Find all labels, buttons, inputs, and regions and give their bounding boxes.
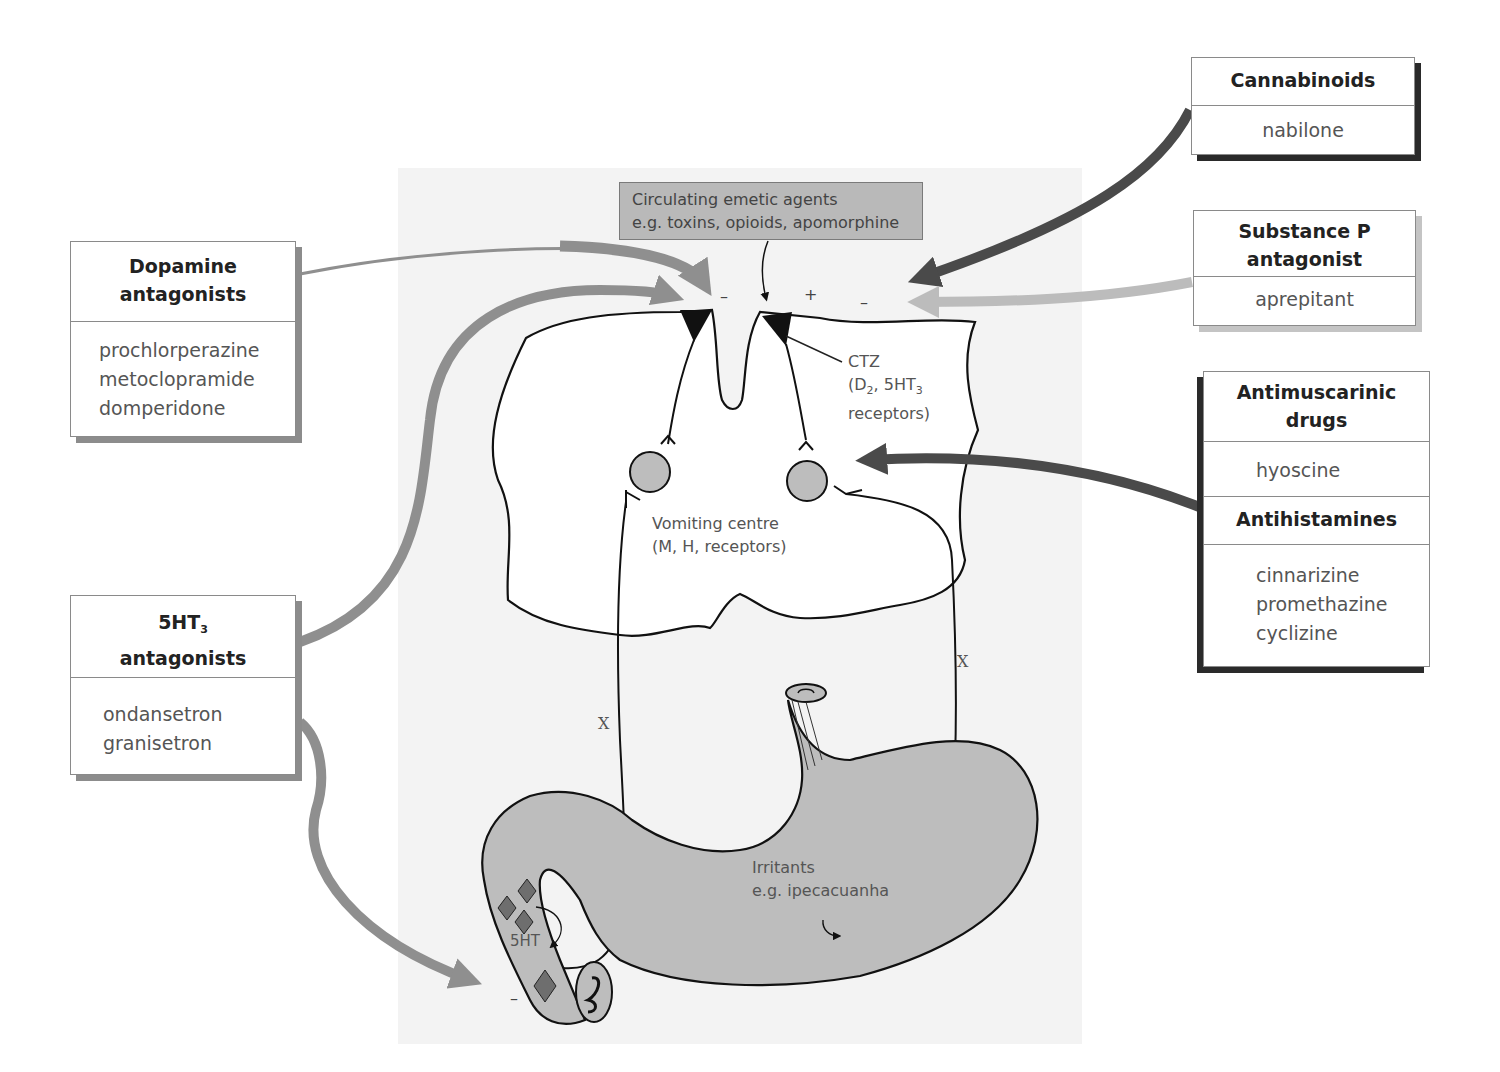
- ht3-antagonists-header: 5HT3 antagonists: [71, 596, 295, 678]
- sign-minus-ctz-right: –: [860, 293, 868, 312]
- cannabinoid-arrow: [920, 110, 1190, 278]
- antimuscarinic-header: Antimuscarinic drugs: [1204, 372, 1429, 442]
- cannabinoids-header: Cannabinoids: [1192, 58, 1414, 106]
- ht3-arrow-to-gut: [300, 722, 470, 980]
- irritants-line2: e.g. ipecacuanha: [752, 879, 889, 902]
- drug-granisetron: granisetron: [103, 729, 295, 758]
- ht3-antagonists-drug-list: ondansetron granisetron: [71, 678, 295, 758]
- drug-prochlorperazine: prochlorperazine: [99, 336, 295, 365]
- sign-plus-circulating: +: [804, 285, 817, 304]
- circulating-agents-line1: Circulating emetic agents: [632, 188, 910, 211]
- dopamine-antagonists-box: Dopamine antagonists prochlorperazine me…: [70, 241, 296, 437]
- ctz-label: CTZ (D2, 5HT3 receptors): [848, 350, 930, 425]
- ctz-label-line1: CTZ: [848, 350, 930, 373]
- vomiting-centre-neuron-left: [630, 452, 670, 492]
- sign-minus-ctz-left: –: [720, 287, 728, 306]
- drug-cyclizine: cyclizine: [1256, 619, 1429, 648]
- substance-p-antagonist-box: Substance P antagonist aprepitant: [1193, 210, 1416, 326]
- drug-ondansetron: ondansetron: [103, 700, 295, 729]
- vagus-cut-mark-right: X: [957, 652, 969, 671]
- circulating-agents-line2: e.g. toxins, opioids, apomorphine: [632, 211, 910, 234]
- vomiting-centre-line1: Vomiting centre: [652, 512, 787, 535]
- cannabinoids-box: Cannabinoids nabilone: [1191, 57, 1415, 155]
- substance-p-drug-list: aprepitant: [1194, 277, 1415, 314]
- substance-p-arrow: [920, 282, 1192, 302]
- ctz-label-line3: receptors): [848, 402, 930, 425]
- drug-cinnarizine: cinnarizine: [1256, 561, 1429, 590]
- cannabinoids-drug-list: nabilone: [1192, 106, 1414, 145]
- antihistamines-header: Antihistamines: [1204, 497, 1429, 545]
- vomiting-centre-label: Vomiting centre (M, H, receptors): [652, 512, 787, 558]
- drug-aprepitant: aprepitant: [1194, 285, 1415, 314]
- antimuscarinic-antihistamine-box: Antimuscarinic drugs hyoscine Antihistam…: [1203, 371, 1430, 667]
- drug-promethazine: promethazine: [1256, 590, 1429, 619]
- irritants-label: Irritants e.g. ipecacuanha: [752, 856, 889, 902]
- ht3-antagonists-box: 5HT3 antagonists ondansetron granisetron: [70, 595, 296, 775]
- serotonin-label: 5HT: [510, 930, 540, 953]
- antimuscarinic-drug-list: hyoscine: [1204, 442, 1429, 497]
- dopamine-antagonists-drug-list: prochlorperazine metoclopramide domperid…: [71, 322, 295, 423]
- drug-metoclopramide: metoclopramide: [99, 365, 295, 394]
- vagus-cut-mark-left: X: [598, 714, 610, 733]
- drug-hyoscine: hyoscine: [1256, 456, 1429, 485]
- antihistamines-drug-list: cinnarizine promethazine cyclizine: [1204, 545, 1429, 648]
- sign-minus-gut: –: [510, 989, 518, 1008]
- vomiting-centre-line2: (M, H, receptors): [652, 535, 787, 558]
- dopamine-antagonists-header: Dopamine antagonists: [71, 242, 295, 322]
- vomiting-centre-neuron-right: [787, 461, 827, 501]
- stomach: [482, 684, 1037, 1024]
- ctz-label-line2: (D2, 5HT3: [848, 373, 930, 402]
- substance-p-header: Substance P antagonist: [1194, 211, 1415, 277]
- drug-domperidone: domperidone: [99, 394, 295, 423]
- irritants-line1: Irritants: [752, 856, 889, 879]
- drug-nabilone: nabilone: [1192, 116, 1414, 145]
- circulating-emetic-agents-box: Circulating emetic agents e.g. toxins, o…: [619, 182, 923, 240]
